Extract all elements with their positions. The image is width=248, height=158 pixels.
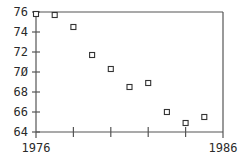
y-tick-label: 68 [14,85,28,99]
data-point-marker [108,67,113,72]
x-tick-label-end: 1986 [209,141,238,155]
y-tick-label: 72 [14,45,28,59]
y-tick-label: 74 [14,25,28,39]
data-point-marker [52,13,57,18]
data-point-marker [71,25,76,30]
data-point-marker [183,121,188,126]
data-point-marker [164,110,169,115]
y-tick-label: 64 [14,125,28,139]
data-point-marker [90,53,95,58]
x-tick-label-start: 1976 [22,141,51,155]
plot-frame [36,12,223,132]
data-point-marker [202,115,207,120]
y-tick-label: 66 [14,105,28,119]
y-tick-label: 7Ø [14,65,29,79]
y-tick-label: 76 [14,5,28,19]
data-point-marker [146,81,151,86]
data-point-marker [34,12,39,17]
x-axis: 19761986 [22,127,238,155]
scatter-chart: 7674727Ø686664 19761986 [0,0,248,158]
data-points [34,12,207,126]
data-point-marker [127,85,132,90]
